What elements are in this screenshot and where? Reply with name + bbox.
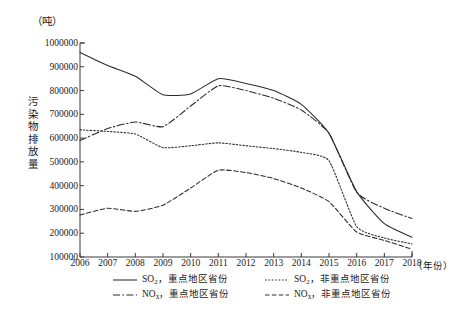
legend-label-3: NOx，非重点地区省份: [294, 287, 391, 302]
legend-row: SO2，重点地区省份SO2，非重点地区省份: [112, 272, 432, 287]
emissions-line-chart: （吨） 污染物排放量 10000020000030000040000050000…: [0, 0, 461, 314]
legend-line-swatch-icon: [112, 276, 138, 284]
legend-item-0[interactable]: SO2，重点地区省份: [112, 272, 264, 288]
legend-item-2[interactable]: NOx，重点地区省份: [112, 287, 264, 302]
legend-label-1: SO2，非重点地区省份: [294, 272, 390, 288]
legend-label-2: NOx，重点地区省份: [142, 287, 229, 302]
legend-item-3[interactable]: NOx，非重点地区省份: [264, 287, 391, 302]
axis-frame: [80, 43, 412, 257]
series-line-0: [80, 53, 412, 238]
legend-row: NOx，重点地区省份NOx，非重点地区省份: [112, 287, 432, 302]
plot-area: [0, 0, 461, 314]
legend-line-swatch-icon: [112, 291, 138, 299]
legend-label-0: SO2，重点地区省份: [142, 272, 228, 288]
legend-line-swatch-icon: [264, 276, 290, 284]
legend-line-swatch-icon: [264, 291, 290, 299]
series-line-1: [80, 130, 412, 244]
legend-item-1[interactable]: SO2，非重点地区省份: [264, 272, 390, 288]
chart-legend: SO2，重点地区省份SO2，非重点地区省份NOx，重点地区省份NOx，非重点地区…: [112, 272, 432, 302]
series-line-3: [80, 170, 412, 249]
